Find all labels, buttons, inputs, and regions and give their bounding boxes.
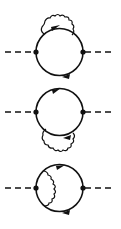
fermion-loop bbox=[36, 165, 83, 212]
vertex-left bbox=[33, 49, 38, 54]
diagram-3 bbox=[5, 165, 115, 216]
vertex-left bbox=[33, 109, 38, 114]
vertex-right bbox=[80, 185, 85, 190]
fermion-loop bbox=[36, 89, 83, 136]
diagram-1 bbox=[5, 15, 115, 80]
fermion-loop bbox=[36, 29, 83, 76]
photon-wavy-line bbox=[44, 171, 56, 206]
vertex-right bbox=[80, 49, 85, 54]
fermion-arrow-top bbox=[56, 165, 65, 170]
vertex-right bbox=[80, 109, 85, 114]
feynman-diagrams-figure bbox=[0, 0, 121, 229]
vertex-left bbox=[33, 185, 38, 190]
diagram-2 bbox=[5, 88, 115, 152]
